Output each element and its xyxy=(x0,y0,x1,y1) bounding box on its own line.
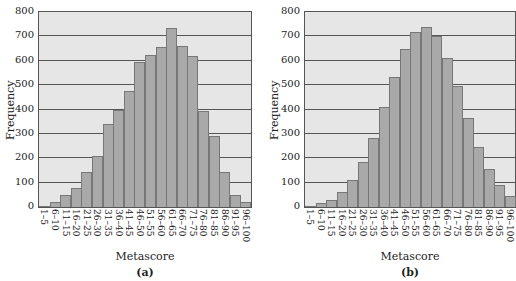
x-tick-label: 46–50 xyxy=(135,209,144,236)
x-axis-label: Metascore xyxy=(304,250,516,263)
x-tick-label: 96–100 xyxy=(505,209,514,242)
x-tick-label: 81–85 xyxy=(209,209,218,236)
histogram-bar xyxy=(494,185,505,207)
x-tick-label: 6–10 xyxy=(316,209,325,231)
chart-caption: (b) xyxy=(304,266,516,279)
x-tick-label: 76–80 xyxy=(463,209,472,236)
gridline xyxy=(39,35,251,36)
y-tick-label: 500 xyxy=(274,79,300,89)
x-tick-label: 86–90 xyxy=(220,209,229,236)
histogram-bar xyxy=(240,202,251,207)
y-tick-label: 400 xyxy=(8,104,34,114)
y-tick-label: 100 xyxy=(8,177,34,187)
histogram-bar xyxy=(326,200,337,207)
histogram-bar xyxy=(368,138,379,207)
y-tick-label: 0 xyxy=(8,201,34,211)
histogram-bar xyxy=(452,86,463,207)
x-tick-label: 16–20 xyxy=(337,209,346,236)
x-tick-label: 1–5 xyxy=(39,209,48,225)
histogram-bar xyxy=(209,136,220,207)
histogram-b: Frequency 0100200300400500600700800 1–56… xyxy=(258,0,516,281)
x-tick-label: 1–5 xyxy=(305,209,314,225)
x-tick-label: 41–45 xyxy=(389,209,398,236)
x-tick-label: 46–50 xyxy=(400,209,409,236)
histogram-bar xyxy=(92,156,103,207)
x-tick-label: 61–65 xyxy=(431,209,440,236)
x-tick-label: 16–20 xyxy=(71,209,80,236)
y-tick-label: 700 xyxy=(274,30,300,40)
histogram-bar xyxy=(166,28,177,207)
x-tick-label: 31–35 xyxy=(368,209,377,236)
histogram-bar xyxy=(113,110,124,208)
x-tick-label: 11–15 xyxy=(326,209,335,236)
chart-caption: (a) xyxy=(38,266,252,279)
histogram-bar xyxy=(442,58,453,207)
y-tick-label: 200 xyxy=(274,152,300,162)
histogram-bar xyxy=(219,172,230,207)
x-tick-label: 81–85 xyxy=(473,209,482,236)
x-tick-label: 21–25 xyxy=(347,209,356,236)
x-tick-label: 51–55 xyxy=(145,209,154,236)
y-tick-label: 300 xyxy=(8,128,34,138)
x-tick-label: 56–60 xyxy=(421,209,430,236)
histogram-bar xyxy=(505,196,516,207)
y-tick-label: 100 xyxy=(274,177,300,187)
x-tick-label: 96–100 xyxy=(241,209,250,242)
x-tick-label: 26–30 xyxy=(92,209,101,236)
y-tick-label: 600 xyxy=(8,55,34,65)
histogram-bar xyxy=(39,206,50,207)
x-tick-label: 36–40 xyxy=(379,209,388,236)
histogram-bar xyxy=(124,91,135,207)
x-tick-label: 56–60 xyxy=(156,209,165,236)
x-tick-label: 41–45 xyxy=(124,209,133,236)
x-tick-label: 61–65 xyxy=(167,209,176,236)
x-tick-label: 91–95 xyxy=(230,209,239,236)
histogram-bar xyxy=(484,169,495,207)
histogram-bar xyxy=(473,147,484,207)
x-tick-label: 86–90 xyxy=(484,209,493,236)
y-tick-label: 700 xyxy=(8,30,34,40)
histogram-bar xyxy=(347,180,358,207)
plot-area xyxy=(38,11,252,208)
y-tick-label: 400 xyxy=(274,104,300,114)
y-tick-label: 0 xyxy=(274,201,300,211)
y-tick-label: 600 xyxy=(274,55,300,65)
x-tick-label: 51–55 xyxy=(410,209,419,236)
x-tick-label: 71–75 xyxy=(188,209,197,236)
histogram-bar xyxy=(400,49,411,207)
histogram-bar xyxy=(187,56,198,207)
x-tick-label: 71–75 xyxy=(452,209,461,236)
x-tick-label: 66–70 xyxy=(442,209,451,236)
x-tick-label: 66–70 xyxy=(177,209,186,236)
histogram-bar xyxy=(337,192,348,207)
x-tick-label: 31–35 xyxy=(103,209,112,236)
x-axis-label: Metascore xyxy=(38,250,252,263)
y-tick-label: 300 xyxy=(274,128,300,138)
x-tick-label: 11–15 xyxy=(61,209,70,236)
histogram-a: Frequency 0100200300400500600700800 1–56… xyxy=(0,0,258,281)
histogram-bar xyxy=(81,172,92,207)
histogram-bar xyxy=(410,32,421,208)
x-tick-label: 6–10 xyxy=(50,209,59,231)
histogram-bar xyxy=(379,107,390,207)
histogram-bar xyxy=(358,162,369,207)
histogram-bar xyxy=(103,124,114,207)
histogram-bar xyxy=(431,36,442,207)
y-tick-label: 800 xyxy=(274,6,300,16)
y-tick-label: 200 xyxy=(8,152,34,162)
histogram-bar xyxy=(305,206,316,207)
histogram-bar xyxy=(50,202,61,207)
histogram-bar xyxy=(145,55,156,207)
plot-area xyxy=(304,11,516,208)
x-tick-label: 76–80 xyxy=(198,209,207,236)
histogram-bar xyxy=(316,203,327,207)
x-tick-label: 21–25 xyxy=(82,209,91,236)
histogram-bar xyxy=(134,62,145,207)
x-tick-label: 36–40 xyxy=(114,209,123,236)
y-tick-label: 500 xyxy=(8,79,34,89)
histogram-bar xyxy=(156,47,167,207)
histogram-bar xyxy=(198,111,209,207)
histogram-bar xyxy=(421,27,432,207)
y-tick-label: 800 xyxy=(8,6,34,16)
histogram-bar xyxy=(60,195,71,207)
